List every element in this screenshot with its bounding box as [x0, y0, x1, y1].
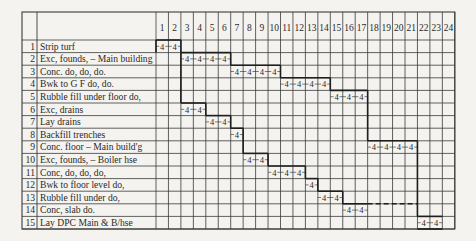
duration-label: 4	[322, 79, 327, 89]
activity-label: Rubble fill under do,	[40, 192, 120, 203]
column-header-week: 7	[235, 23, 240, 33]
activity-label: Exc, founds, – Boiler hse	[40, 154, 137, 165]
column-header-week: 3	[185, 23, 190, 33]
row-number: 5	[30, 91, 35, 102]
column-header-week: 12	[294, 23, 304, 33]
row-number: 2	[30, 53, 35, 64]
column-header-week: 17	[357, 23, 367, 33]
duration-label: 4	[285, 168, 290, 178]
column-header-week: 13	[307, 23, 317, 33]
activity-label: Conc. do, do, do.	[40, 66, 106, 77]
duration-label: 4	[334, 193, 339, 203]
row-number: 3	[30, 66, 35, 77]
duration-label: 4	[197, 105, 202, 115]
row-number: 1	[30, 41, 35, 52]
duration-label: 4	[347, 205, 352, 215]
activity-label: Exc, drains	[40, 104, 83, 115]
duration-label: 4	[322, 193, 327, 203]
duration-label: 4	[160, 42, 165, 52]
column-header-week: 5	[210, 23, 215, 33]
column-header-week: 18	[369, 23, 379, 33]
activity-rows: 1Strip turf2Exc, founds, – Main building…	[25, 41, 152, 228]
column-header-week: 2	[172, 23, 177, 33]
row-number: 12	[25, 179, 35, 190]
duration-label: 4	[397, 142, 402, 152]
bar-chart-schedule: 123456789101112131415161718192021222324 …	[0, 0, 476, 241]
duration-label: 4	[222, 117, 227, 127]
duration-label: 4	[422, 218, 427, 228]
duration-label: 4	[235, 130, 240, 140]
duration-label: 4	[334, 92, 339, 102]
duration-label: 4	[409, 142, 414, 152]
column-header-row: 123456789101112131415161718192021222324	[160, 23, 454, 33]
column-header-week: 24	[444, 23, 454, 33]
column-header-week: 8	[247, 23, 252, 33]
column-header-week: 16	[344, 23, 354, 33]
column-header-week: 23	[431, 23, 441, 33]
duration-label: 4	[272, 67, 277, 77]
column-header-week: 15	[332, 23, 342, 33]
duration-label: 4	[297, 168, 302, 178]
column-header-week: 19	[382, 23, 392, 33]
duration-label: 4	[197, 54, 202, 64]
row-number: 11	[26, 167, 35, 178]
column-header-week: 9	[259, 23, 264, 33]
duration-label: 4	[260, 67, 265, 77]
activity-label: Bwk to G F do, do.	[40, 78, 114, 89]
column-header-week: 21	[406, 23, 416, 33]
activity-label: Conc. floor – Main build'g	[40, 141, 142, 152]
column-header-week: 14	[319, 23, 329, 33]
row-number: 8	[30, 129, 35, 140]
activity-label: Exc, founds, – Main building	[40, 53, 153, 64]
row-number: 13	[25, 192, 35, 203]
duration-label: 4	[347, 92, 352, 102]
duration-label: 4	[260, 155, 265, 165]
duration-label: 4	[210, 54, 215, 64]
activity-bars: 44444444444444444444444444444444444444	[156, 40, 442, 229]
row-number: 14	[25, 204, 35, 215]
column-header-week: 4	[197, 23, 202, 33]
duration-label: 4	[222, 54, 227, 64]
activity-label: Lay drains	[40, 116, 81, 127]
activity-label: Rubble fill under floor do,	[40, 91, 141, 102]
activity-label: Strip turf	[40, 41, 76, 52]
activity-label: Bwk to floor level do,	[40, 179, 124, 190]
duration-label: 4	[272, 168, 277, 178]
column-header-week: 20	[394, 23, 404, 33]
duration-label: 4	[285, 79, 290, 89]
row-number: 15	[25, 217, 35, 228]
row-number: 4	[30, 78, 35, 89]
column-header-week: 10	[270, 23, 280, 33]
column-header-week: 11	[282, 23, 291, 33]
duration-label: 4	[359, 92, 364, 102]
duration-label: 4	[235, 67, 240, 77]
duration-label: 4	[384, 142, 389, 152]
column-header-week: 22	[419, 23, 429, 33]
activity-label: Conc, slab do.	[40, 204, 95, 215]
duration-label: 4	[297, 79, 302, 89]
row-number: 10	[25, 154, 35, 165]
activity-label: Backfill trenches	[40, 129, 106, 140]
row-number: 6	[30, 104, 35, 115]
activity-label: Lay DPC Main & B/hse	[40, 217, 133, 228]
column-header-week: 6	[222, 23, 227, 33]
row-number: 7	[30, 116, 35, 127]
row-number: 9	[30, 141, 35, 152]
duration-label: 4	[210, 117, 215, 127]
duration-label: 4	[359, 205, 364, 215]
activity-label: Conc, do, do, do,	[40, 167, 106, 178]
duration-label: 4	[173, 42, 178, 52]
column-header-week: 1	[160, 23, 165, 33]
